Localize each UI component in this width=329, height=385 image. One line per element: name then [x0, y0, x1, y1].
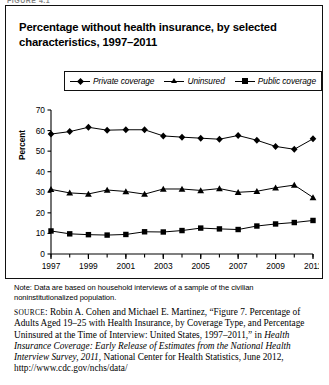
y-tick-label: 40: [36, 167, 46, 177]
x-tick-label: 2009: [266, 261, 285, 271]
data-point-marker: [291, 146, 298, 153]
data-point-marker: [123, 126, 130, 133]
data-point-marker: [292, 220, 297, 225]
legend-label: Public coverage: [258, 76, 316, 86]
legend-item-public: Public coverage: [235, 76, 316, 86]
data-point-marker: [66, 128, 73, 135]
x-tick-label: 2007: [229, 261, 248, 271]
data-point-marker: [104, 232, 109, 237]
y-tick-label: 10: [36, 228, 46, 238]
legend-item-private: Private coverage: [70, 76, 154, 86]
x-tick-label: 2005: [191, 261, 210, 271]
data-point-marker: [48, 131, 55, 138]
line-chart-svg: 0102030405060701997199920012003200520072…: [19, 102, 319, 277]
y-tick-label: 50: [36, 146, 46, 156]
legend-label: Uninsured: [187, 76, 224, 86]
data-point-marker: [197, 135, 204, 142]
data-point-marker: [198, 225, 203, 230]
chart-source: SOURCE: Robin A. Cohen and Michael E. Ma…: [14, 307, 319, 375]
data-point-marker: [216, 185, 223, 191]
chart-note: Note: Data are based on household interv…: [14, 283, 314, 302]
x-tick-label: 2003: [154, 261, 173, 271]
data-point-marker: [85, 124, 92, 131]
data-point-marker: [67, 231, 72, 236]
data-point-marker: [235, 132, 242, 139]
data-point-marker: [254, 223, 259, 228]
data-point-marker: [272, 143, 279, 150]
data-point-marker: [141, 126, 148, 133]
figure-container: Percentage without health insurance, by …: [5, 5, 323, 279]
data-point-marker: [142, 229, 147, 234]
data-point-marker: [235, 227, 240, 232]
legend-item-uninsured: Uninsured: [164, 76, 224, 86]
x-tick-label: 1999: [79, 261, 98, 271]
data-point-marker: [179, 134, 186, 141]
data-point-marker: [104, 127, 111, 134]
triangle-marker-icon: [164, 77, 184, 86]
plot-area: Percent 01020304050607019971999200120032…: [19, 102, 319, 277]
y-tick-label: 20: [36, 208, 46, 218]
chart-legend: Private coverage Uninsured Public covera…: [64, 71, 322, 91]
data-point-marker: [310, 218, 315, 223]
data-point-marker: [179, 228, 184, 233]
data-point-marker: [310, 194, 317, 200]
data-point-marker: [217, 226, 222, 231]
data-point-marker: [273, 221, 278, 226]
data-point-marker: [123, 232, 128, 237]
data-point-marker: [254, 137, 261, 144]
source-prefix: SOURCE: [14, 308, 45, 317]
legend-label: Private coverage: [93, 76, 154, 86]
y-axis-label: Percent: [18, 130, 27, 160]
source-part1: : Robin A. Cohen and Michael E. Martinez…: [14, 307, 304, 340]
figure-label: FIGURE 4.1: [7, 0, 50, 4]
y-tick-label: 60: [36, 126, 46, 136]
data-point-marker: [216, 136, 223, 143]
square-marker-icon: [235, 77, 255, 86]
data-point-marker: [86, 232, 91, 237]
x-tick-label: 2011: [304, 261, 319, 271]
x-tick-label: 1997: [42, 261, 61, 271]
y-tick-label: 30: [36, 187, 46, 197]
y-tick-label: 0: [40, 249, 45, 259]
x-tick-label: 2001: [117, 261, 136, 271]
data-point-marker: [160, 132, 167, 139]
data-point-marker: [161, 229, 166, 234]
chart-title: Percentage without health insurance, by …: [19, 20, 305, 49]
data-point-marker: [48, 228, 53, 233]
data-point-marker: [310, 135, 317, 142]
data-point-marker: [48, 186, 55, 192]
y-tick-label: 70: [36, 105, 46, 115]
diamond-marker-icon: [70, 77, 90, 86]
data-point-marker: [291, 182, 298, 188]
